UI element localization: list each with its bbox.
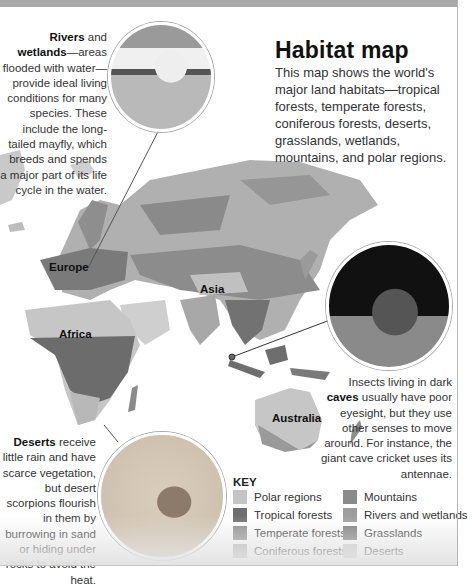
label-africa: Africa <box>59 328 92 340</box>
rivers-wetlands-caption: Rivers and wetlands—areas flooded with w… <box>0 30 107 198</box>
caption-keyword: Deserts <box>14 436 56 448</box>
swatch-icon <box>343 490 357 504</box>
intro-text: This map shows the world's major land ha… <box>275 64 455 166</box>
cave-cricket-photo <box>326 242 452 370</box>
key-item-polar: Polar regions <box>233 490 343 504</box>
label-asia: Asia <box>200 283 224 295</box>
key-label: Mountains <box>364 491 417 503</box>
page-right-edge <box>457 0 458 566</box>
key-title: KEY <box>233 476 453 488</box>
caves-caption: Insects living in dark caves usually hav… <box>318 375 452 482</box>
page-bottom-shade <box>0 515 458 566</box>
caption-text: —areas flooded with water—provide ideal … <box>0 46 107 196</box>
caption-text: Insects living in dark <box>348 376 452 388</box>
caption-text: usually have poor eyesight, but they use… <box>321 391 452 479</box>
page-bottom-edge <box>0 565 458 566</box>
swatch-icon <box>233 490 247 504</box>
caption-text: and <box>85 31 107 43</box>
page-title: Habitat map <box>275 37 409 64</box>
key-label: Polar regions <box>254 491 322 503</box>
caption-keyword: Rivers <box>49 31 84 43</box>
key-item-mountains: Mountains <box>343 490 453 504</box>
caption-keyword: wetlands <box>18 46 67 58</box>
label-europe: Europe <box>49 261 89 273</box>
mayfly-photo <box>108 22 214 132</box>
caption-keyword: caves <box>327 391 359 403</box>
label-australia: Australia <box>272 412 321 424</box>
